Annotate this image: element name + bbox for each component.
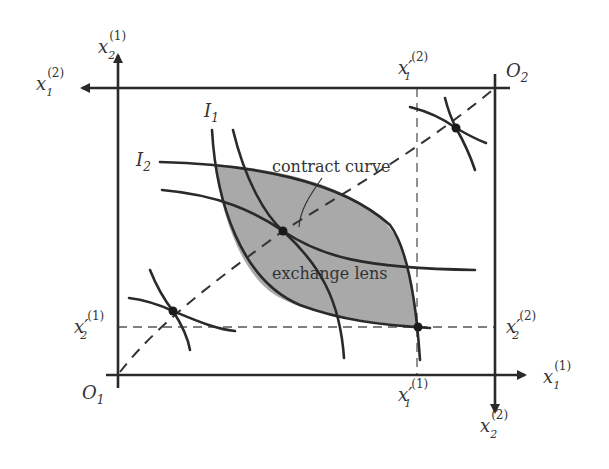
axis-x1-2-label: x1(2) bbox=[36, 66, 64, 99]
endowment-x2p-1-label: x′2(1) bbox=[74, 309, 104, 342]
exchange-lens-region bbox=[214, 164, 418, 327]
tangency-point-top-right bbox=[452, 124, 461, 133]
indifference-curve-top-right-b bbox=[445, 98, 475, 170]
origin-o2-label: O2 bbox=[506, 60, 528, 85]
i1-label: I1 bbox=[203, 100, 219, 125]
contract-curve-label: contract curve bbox=[272, 157, 390, 176]
tangency-point-middle bbox=[279, 227, 288, 236]
axis-x2-1-label: x2(1) bbox=[98, 29, 126, 62]
endowment-point bbox=[414, 323, 423, 332]
axis-x2-2-label: x2(2) bbox=[480, 408, 508, 441]
endowment-x1p-1-label: x′1(1) bbox=[398, 377, 428, 410]
endowment-x2p-2-label: x′2(2) bbox=[506, 309, 536, 342]
origin-o1-label: O1 bbox=[82, 382, 104, 407]
exchange-lens-label: exchange lens bbox=[272, 264, 388, 283]
i2-label: I2 bbox=[135, 149, 151, 174]
edgeworth-box-diagram: contract curve exchange lens I1 I2 O1 O2… bbox=[0, 0, 609, 469]
tangency-point-bottom-left bbox=[169, 307, 178, 316]
axis-x1-1-label: x1(1) bbox=[543, 359, 571, 392]
endowment-x1p-2-label: x′1(2) bbox=[398, 50, 428, 83]
